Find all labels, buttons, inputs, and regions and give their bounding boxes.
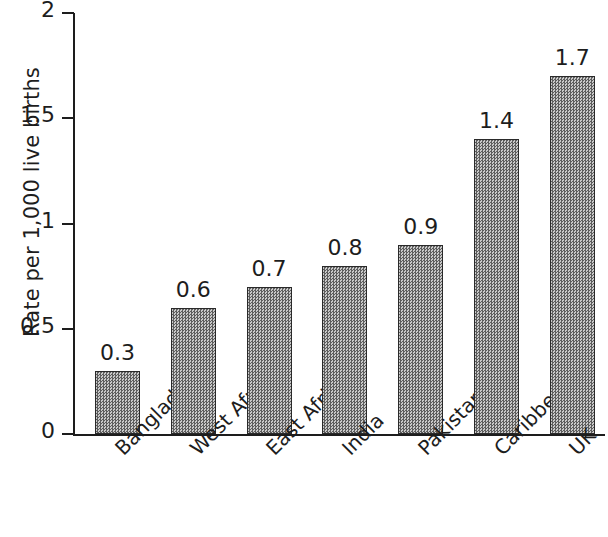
bar-value-label: 0.8: [327, 235, 362, 260]
bar: [398, 245, 443, 434]
bar: [171, 308, 216, 434]
bar-value-label: 0.3: [100, 340, 135, 365]
bar-value-label: 0.6: [176, 277, 211, 302]
bar: [247, 287, 292, 434]
plot-area: 0.3Bangladesh0.6West Africa0.7East Afric…: [0, 0, 608, 537]
bar-value-label: 1.4: [479, 108, 514, 133]
bar-value-label: 1.7: [555, 45, 590, 70]
bar-value-label: 0.7: [252, 256, 287, 281]
bar: [474, 139, 519, 434]
bar-value-label: 0.9: [403, 214, 438, 239]
bar-chart: Rate per 1,000 live births 00.511.52 0.3…: [0, 0, 608, 537]
bar: [550, 76, 595, 434]
bar: [322, 266, 367, 434]
